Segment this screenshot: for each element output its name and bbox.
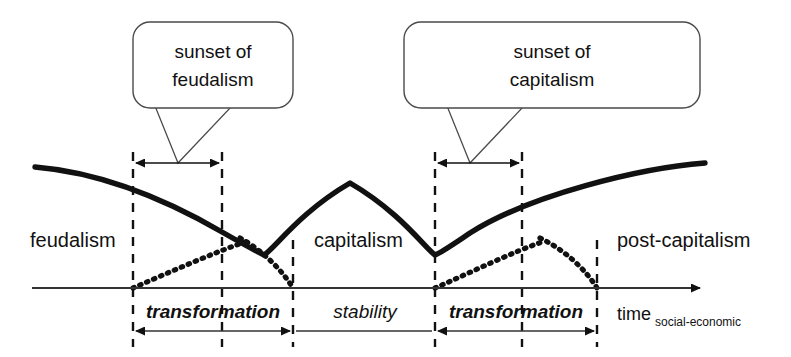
callout-capitalism-line1: sunset of: [513, 41, 591, 62]
era-label-feudalism: feudalism: [30, 229, 116, 251]
dotted-emerging-curve-1: [133, 241, 248, 288]
era-label-post-capitalism: post-capitalism: [617, 229, 750, 251]
callout-feudalism-line2: feudalism: [172, 69, 253, 90]
callout-feudalism-tail: [155, 106, 232, 163]
callout-capitalism-tail: [447, 106, 524, 163]
callout-feudalism-line1: sunset of: [174, 41, 252, 62]
axis-label-time: time: [617, 304, 651, 324]
socio-economic-transformation-diagram: sunset of feudalism sunset of capitalism: [0, 0, 791, 357]
callout-feudalism-body: [133, 22, 293, 108]
diagram-canvas: sunset of feudalism sunset of capitalism: [0, 0, 791, 357]
phase-label-stability: stability: [333, 301, 398, 322]
phase-label-transformation-1: transformation: [146, 301, 280, 322]
callout-capitalism-line2: capitalism: [510, 69, 594, 90]
callout-capitalism-body: [404, 22, 700, 108]
callout-sunset-capitalism: sunset of capitalism: [404, 22, 700, 163]
callout-sunset-feudalism: sunset of feudalism: [133, 22, 293, 163]
phase-label-transformation-2: transformation: [449, 301, 583, 322]
era-label-capitalism: capitalism: [314, 229, 403, 251]
axis-sublabel-social-economic: social-economic: [655, 315, 741, 329]
dotted-declining-curve-2: [540, 238, 597, 288]
